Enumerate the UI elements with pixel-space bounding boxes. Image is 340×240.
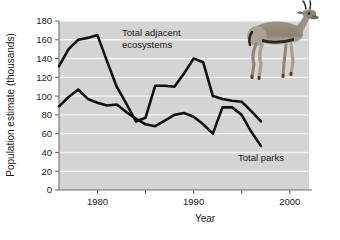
chart-figure: 020406080100120140160180 198019902000 bbox=[0, 0, 340, 240]
total-parks-label: Total parks bbox=[238, 152, 284, 163]
y-axis-ticks: 020406080100120140160180 bbox=[36, 15, 59, 195]
y-tick-label: 40 bbox=[41, 147, 52, 158]
y-tick-label: 0 bbox=[47, 184, 52, 195]
x-axis-title: Year bbox=[195, 213, 216, 224]
y-tick-label: 80 bbox=[41, 109, 52, 120]
y-tick-label: 160 bbox=[36, 34, 52, 45]
y-tick-label: 100 bbox=[36, 91, 52, 102]
y-tick-label: 180 bbox=[36, 15, 52, 26]
y-tick-label: 20 bbox=[41, 166, 52, 177]
adjacent-ecosystems-label-line1: Total adjacent bbox=[122, 27, 181, 38]
x-axis-ticks: 198019902000 bbox=[87, 190, 300, 207]
x-tick-label: 2000 bbox=[279, 196, 300, 207]
y-tick-label: 120 bbox=[36, 72, 52, 83]
adjacent-ecosystems-label-line2: ecosystems bbox=[122, 39, 172, 50]
y-tick-label: 60 bbox=[41, 128, 52, 139]
x-tick-label: 1990 bbox=[183, 196, 204, 207]
line-chart: 020406080100120140160180 198019902000 bbox=[0, 0, 340, 240]
y-tick-label: 140 bbox=[36, 53, 52, 64]
y-axis-title: Population estimate (thousands) bbox=[5, 33, 16, 176]
x-tick-label: 1980 bbox=[87, 196, 108, 207]
